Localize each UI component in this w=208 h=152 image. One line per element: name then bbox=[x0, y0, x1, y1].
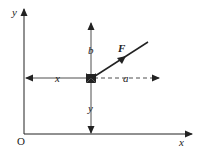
origin-label: O bbox=[17, 135, 25, 147]
vertical-distance-label: y bbox=[87, 102, 93, 114]
point-marker-icon bbox=[86, 73, 96, 83]
force-label: F bbox=[117, 42, 126, 54]
b-label: b bbox=[88, 44, 94, 56]
x-axis-label: x bbox=[178, 136, 184, 148]
horizontal-distance-label: x bbox=[54, 72, 60, 84]
y-axis-label: y bbox=[11, 6, 17, 18]
a-label: a bbox=[123, 72, 129, 84]
force-diagram: y x O b x y a F bbox=[0, 0, 208, 152]
